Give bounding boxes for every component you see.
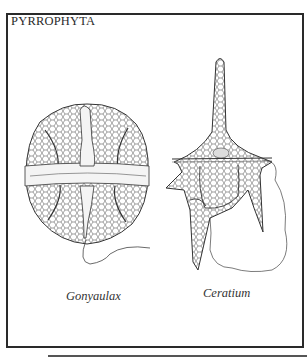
gonyaulax-cell-icon	[25, 104, 150, 264]
caption-gonyaulax: Gonyaulax	[66, 289, 121, 304]
caption-ceratium: Ceratium	[203, 286, 250, 301]
ceratium-cell-icon	[166, 59, 287, 272]
divider-line	[48, 355, 307, 357]
